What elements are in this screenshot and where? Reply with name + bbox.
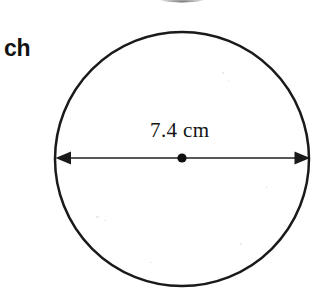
figure-canvas: 7.4 cm ch <box>0 0 314 300</box>
arrowhead-left <box>56 152 72 165</box>
margin-text-fragment: ch <box>4 37 30 60</box>
top-clipped-artifact <box>156 0 208 3</box>
circle-diagram <box>0 0 314 300</box>
center-point-dot <box>177 153 186 162</box>
diameter-label: 7.4 cm <box>150 120 210 141</box>
